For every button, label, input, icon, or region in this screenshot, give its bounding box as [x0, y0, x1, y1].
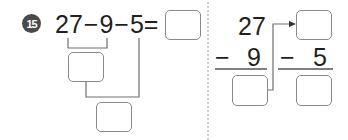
minus-operator: −	[114, 10, 129, 38]
step1-minus: −	[215, 45, 230, 70]
problem-number-badge: 15	[22, 14, 41, 33]
step2-minus: −	[280, 45, 295, 70]
intermediate-answer-box[interactable]	[68, 52, 104, 82]
term-27: 27	[55, 10, 83, 38]
term-9: 9	[99, 10, 113, 38]
step2-top-box[interactable]	[296, 10, 332, 40]
minus-operator: −	[84, 10, 99, 38]
equals-sign: =	[144, 10, 159, 38]
step2-result-box[interactable]	[296, 75, 332, 106]
final-answer-box[interactable]	[165, 10, 201, 40]
arrow-head-icon	[289, 21, 296, 27]
bracket-27-9	[68, 38, 107, 48]
term-5: 5	[130, 10, 144, 38]
step1-top-number: 27	[238, 14, 266, 39]
bracket-final-answer-box[interactable]	[96, 102, 132, 132]
problem-number: 15	[26, 18, 36, 30]
step2-subtrahend: 5	[313, 45, 327, 70]
step1-result-box[interactable]	[232, 75, 268, 106]
step1-subtrahend: 9	[247, 45, 261, 70]
expression: 27−9−5=	[55, 12, 158, 37]
